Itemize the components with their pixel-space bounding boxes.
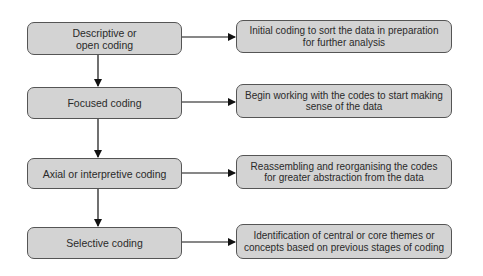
stage-label: Selective coding [66,237,142,249]
description-line: Initial coding to sort the data in prepa… [249,25,438,37]
description-text: Reassembling and reorganising the codes … [251,161,438,184]
stage-label-line: open coding [72,39,136,51]
description-line: Reassembling and reorganising the codes [251,161,438,173]
stage-label: Focused coding [67,97,141,109]
stage-box-focused-coding: Focused coding [27,87,182,119]
description-line: concepts based on previous stages of cod… [244,242,444,254]
description-box-3: Reassembling and reorganising the codes … [236,155,452,189]
stage-label: Axial or interpretive coding [43,168,167,180]
description-text: Begin working with the codes to start ma… [245,90,443,113]
description-line: sense of the data [245,101,443,113]
description-line: for further analysis [249,37,438,49]
description-box-4: Identification of central or core themes… [236,224,452,259]
description-line: for greater abstraction from the data [251,172,438,184]
stage-box-selective-coding: Selective coding [27,227,182,259]
description-box-2: Begin working with the codes to start ma… [236,84,452,118]
stage-box-descriptive-open-coding: Descriptive or open coding [27,22,182,55]
stage-box-axial-interpretive-coding: Axial or interpretive coding [27,158,182,189]
description-line: Identification of central or core themes… [244,230,444,242]
description-line: Begin working with the codes to start ma… [245,90,443,102]
stage-label: Descriptive or open coding [72,27,136,51]
description-box-1: Initial coding to sort the data in prepa… [236,20,452,53]
description-text: Identification of central or core themes… [244,230,444,253]
description-text: Initial coding to sort the data in prepa… [249,25,438,48]
stage-label-line: Descriptive or [72,27,136,39]
